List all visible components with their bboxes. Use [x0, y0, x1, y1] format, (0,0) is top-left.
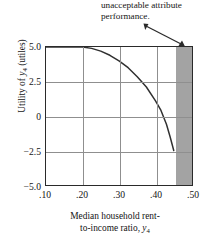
- chart-figure: unacceptable attribute performance. 5.02…: [0, 0, 205, 244]
- annotation-line-2: performance.: [101, 11, 205, 22]
- y-axis-label-sub: 4: [21, 68, 28, 71]
- x-tick-label: .50: [187, 189, 199, 200]
- annotation-line-1: unacceptable attribute: [101, 0, 205, 11]
- x-axis-label-sub: 4: [147, 227, 150, 234]
- gridline-horizontal: [46, 152, 192, 153]
- y-axis-label-pre: Utility of: [17, 76, 27, 113]
- x-axis-label-line-1: Median household rent-: [30, 210, 200, 222]
- plot-inner: [46, 47, 192, 185]
- y-tick-label: 0: [36, 111, 41, 122]
- x-axis-label-var: y: [142, 223, 146, 233]
- y-axis-label: Utility of y4 (utiles): [17, 1, 27, 151]
- x-tick-label: .40: [150, 189, 162, 200]
- gridline-horizontal: [46, 117, 192, 118]
- gridline-vertical: [157, 47, 158, 185]
- x-axis-label-pre: to-income ratio,: [80, 223, 142, 233]
- x-tick-label: .20: [76, 189, 88, 200]
- y-axis-label-post: (utiles): [17, 39, 27, 68]
- gridline-vertical: [83, 47, 84, 185]
- plot-area: [45, 46, 193, 186]
- gridline-horizontal: [46, 82, 192, 83]
- y-axis-label-var: y: [17, 72, 27, 76]
- chart-annotation: unacceptable attribute performance.: [101, 0, 205, 22]
- y-tick-label: 5.0: [29, 41, 41, 52]
- x-tick-label: .30: [113, 189, 125, 200]
- y-tick-label: 2.5: [29, 76, 41, 87]
- x-axis-label: Median household rent- to-income ratio, …: [30, 210, 200, 236]
- x-axis-label-line-2: to-income ratio, y4: [30, 222, 200, 235]
- gridline-vertical: [120, 47, 121, 185]
- utility-curve: [46, 47, 192, 185]
- x-axis-ticks: .10.20.30.40.50: [45, 189, 193, 203]
- x-tick-label: .10: [39, 189, 51, 200]
